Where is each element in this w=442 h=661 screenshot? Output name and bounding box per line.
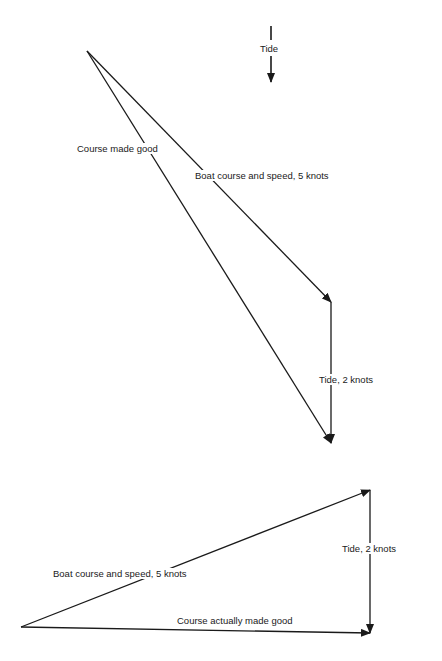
- upper-tide-vector-label: Tide, 2 knots: [319, 374, 373, 385]
- upper-course-made-good-label: Course made good: [77, 143, 158, 154]
- course-made-good-vector: [87, 51, 331, 443]
- lower-course-made-good-label: Course actually made good: [177, 615, 293, 626]
- vector-diagram: [0, 0, 442, 661]
- upper-vector-triangle: [87, 51, 331, 443]
- course-made-good-vector: [21, 627, 370, 633]
- boat-course-vector: [21, 490, 370, 627]
- tide-legend-label: Tide: [260, 43, 278, 54]
- lower-boat-vector-label: Boat course and speed, 5 knots: [53, 568, 187, 579]
- upper-boat-vector-label: Boat course and speed, 5 knots: [195, 170, 329, 181]
- lower-vector-triangle: [21, 490, 370, 633]
- lower-tide-vector-label: Tide, 2 knots: [342, 543, 396, 554]
